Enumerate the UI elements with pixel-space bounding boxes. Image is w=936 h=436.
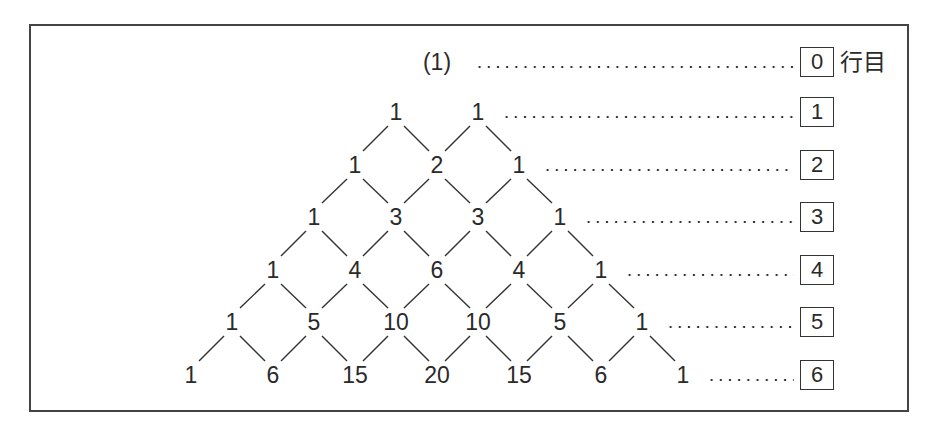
triangle-entry: 6 — [267, 362, 280, 388]
row-number-box: 3 — [800, 202, 834, 232]
row-number-box: 1 — [800, 97, 834, 127]
triangle-entry: 1 — [554, 204, 567, 230]
triangle-entry: 1 — [677, 362, 690, 388]
dotted-leader — [625, 273, 794, 277]
triangle-entry: 1 — [390, 99, 403, 125]
dotted-leader — [666, 325, 794, 329]
row-number-box: 5 — [800, 307, 834, 337]
row-number-box: 2 — [800, 150, 834, 180]
triangle-entry: 1 — [595, 257, 608, 283]
triangle-entry: 1 — [513, 152, 526, 178]
triangle-entry: 1 — [636, 309, 649, 335]
triangle-entry: 5 — [554, 309, 567, 335]
triangle-entry: 4 — [513, 257, 526, 283]
dotted-leader — [475, 65, 794, 69]
triangle-entry: 3 — [390, 204, 403, 230]
dotted-leader — [707, 378, 794, 382]
triangle-entry: 1 — [185, 362, 198, 388]
row-number-box: 6 — [800, 360, 834, 390]
triangle-entry: 10 — [465, 309, 491, 335]
figure-frame — [29, 24, 909, 412]
triangle-entry: 20 — [424, 362, 450, 388]
triangle-entry: (1) — [423, 49, 451, 75]
triangle-entry: 1 — [308, 204, 321, 230]
triangle-entry: 10 — [383, 309, 409, 335]
triangle-entry: 15 — [342, 362, 368, 388]
triangle-entry: 1 — [226, 309, 239, 335]
triangle-entry: 3 — [472, 204, 485, 230]
triangle-entry: 1 — [267, 257, 280, 283]
dotted-leader — [543, 168, 794, 172]
triangle-entry: 6 — [431, 257, 444, 283]
triangle-entry: 1 — [472, 99, 485, 125]
row-number-box: 4 — [800, 255, 834, 285]
triangle-entry: 2 — [431, 152, 444, 178]
dotted-leader — [502, 115, 794, 119]
triangle-entry: 5 — [308, 309, 321, 335]
triangle-entry: 4 — [349, 257, 362, 283]
row-number-box: 0 — [800, 47, 834, 77]
row-suffix-label: 行目 — [840, 49, 886, 75]
triangle-entry: 6 — [595, 362, 608, 388]
triangle-entry: 15 — [506, 362, 532, 388]
triangle-entry: 1 — [349, 152, 362, 178]
dotted-leader — [584, 220, 794, 224]
